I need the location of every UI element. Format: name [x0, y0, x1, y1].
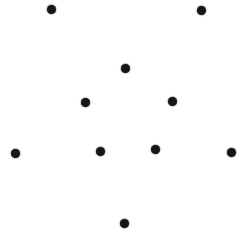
data-point-dot	[151, 145, 160, 154]
data-point-dot	[120, 219, 129, 228]
data-point-dot	[47, 5, 56, 14]
data-point-dot	[227, 148, 236, 157]
data-point-dot	[81, 98, 90, 107]
data-point-dot	[197, 6, 206, 15]
data-point-dot	[168, 97, 177, 106]
dot-pattern-canvas	[0, 0, 242, 246]
data-point-dot	[11, 149, 20, 158]
data-point-dot	[121, 64, 130, 73]
data-point-dot	[96, 147, 105, 156]
